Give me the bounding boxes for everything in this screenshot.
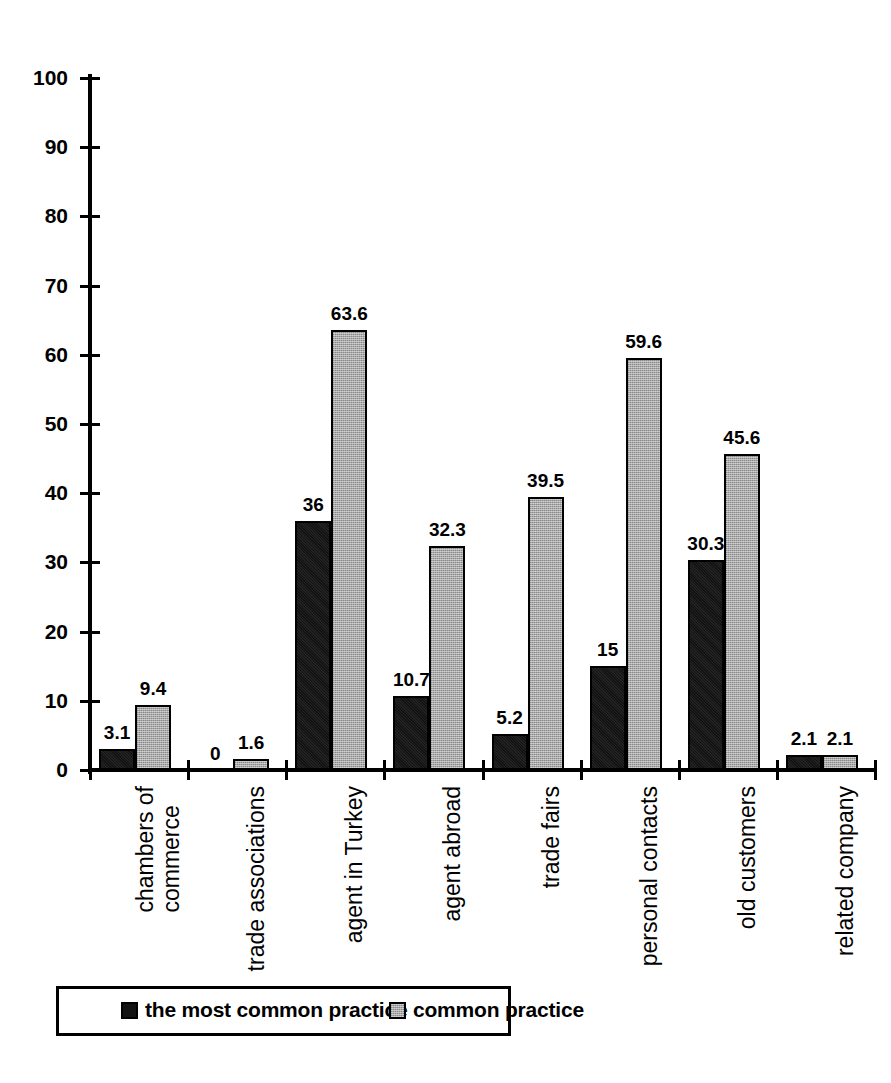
category-label: chambers ofcommerce	[133, 786, 185, 913]
category-label-line: old customers	[735, 786, 761, 929]
bar-group: 3.19.4	[99, 78, 171, 770]
y-axis-tick-label: 70	[26, 275, 68, 296]
bar	[528, 497, 564, 770]
category-label: personal contacts	[637, 786, 663, 966]
bar	[233, 759, 269, 770]
bar-group: 10.732.3	[393, 78, 465, 770]
category-label: agent in Turkey	[342, 786, 368, 943]
y-axis-tick-label: 90	[26, 136, 68, 157]
bar	[393, 696, 429, 770]
bar-group: 2.12.1	[786, 78, 858, 770]
y-axis-tick-label: 80	[26, 205, 68, 226]
category-label-line: agent in Turkey	[342, 786, 368, 943]
category-label: related company	[833, 786, 859, 956]
category-label: trade associations	[244, 786, 270, 971]
y-axis-tick-label: 20	[26, 621, 68, 642]
bar	[786, 755, 822, 770]
bar	[822, 755, 858, 770]
bar-value-label: 59.6	[608, 332, 680, 351]
gray-square-icon	[389, 1002, 406, 1019]
category-label-line: trade associations	[244, 786, 270, 971]
bar	[724, 454, 760, 770]
category-label: agent abroad	[440, 786, 466, 922]
y-axis-tick-label: 40	[26, 482, 68, 503]
bar-chart: 0102030405060708090100 3.19.401.63663.61…	[0, 0, 891, 1083]
y-axis-tick-label: 50	[26, 413, 68, 434]
bar-group: 30.345.6	[688, 78, 760, 770]
bar-value-label: 63.6	[313, 304, 385, 323]
y-axis-tick-label: 30	[26, 551, 68, 572]
legend-label-1: common practice	[413, 998, 584, 1022]
bar-value-label: 1.6	[215, 733, 287, 752]
bar-group: 01.6	[197, 78, 269, 770]
bar	[135, 705, 171, 770]
bar	[331, 330, 367, 770]
bar	[688, 560, 724, 770]
bar	[492, 734, 528, 770]
bar-group: 3663.6	[295, 78, 367, 770]
category-label: trade fairs	[539, 786, 565, 888]
bar	[295, 521, 331, 770]
bar	[626, 358, 662, 770]
bar	[429, 546, 465, 770]
category-label-line: related company	[833, 786, 859, 956]
y-axis-tick-label: 0	[26, 759, 68, 780]
bar-group: 1559.6	[590, 78, 662, 770]
bar-value-label: 39.5	[510, 471, 582, 490]
legend-item-1[interactable]: common practice	[389, 998, 584, 1022]
plot-area: 3.19.401.63663.610.732.35.239.51559.630.…	[90, 78, 875, 770]
y-axis-tick-label: 10	[26, 690, 68, 711]
legend-label-0: the most common practice	[145, 998, 407, 1022]
bar	[99, 749, 135, 770]
dark-square-icon	[121, 1002, 138, 1019]
y-axis-tick-label: 60	[26, 344, 68, 365]
bar-value-label: 45.6	[706, 428, 778, 447]
category-label: old customers	[735, 786, 761, 929]
category-label-line: chambers of	[133, 786, 159, 913]
category-label-line: commerce	[159, 786, 185, 913]
bar-group: 5.239.5	[492, 78, 564, 770]
bar-value-label: 32.3	[411, 520, 483, 539]
bar-value-label: 9.4	[117, 679, 189, 698]
bar-value-label: 2.1	[804, 729, 876, 748]
legend: the most common practice common practice	[56, 986, 511, 1036]
category-label-line: agent abroad	[440, 786, 466, 922]
category-label-line: trade fairs	[539, 786, 565, 888]
category-label-line: personal contacts	[637, 786, 663, 966]
bar	[590, 666, 626, 770]
legend-item-0[interactable]: the most common practice	[121, 998, 407, 1022]
y-axis-tick-label: 100	[26, 67, 68, 88]
